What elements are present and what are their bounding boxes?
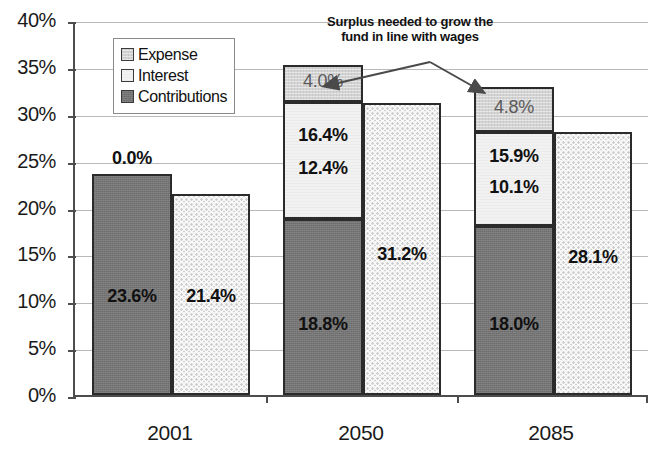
ytick-mark-10 xyxy=(68,303,76,305)
xtick-label-2085: 2085 xyxy=(471,421,631,445)
legend-swatch-contributions-icon xyxy=(121,90,134,103)
ytick-label-0: 0% xyxy=(0,384,56,407)
legend: Expense Interest Contributions xyxy=(113,38,235,114)
annotation-text: Surplus needed to grow the fund in line … xyxy=(300,14,520,44)
bar-label-2085-contributions: 18.0% xyxy=(476,314,552,335)
legend-label-expense: Expense xyxy=(138,46,197,64)
bar-2085-surplus[interactable]: 28.1% xyxy=(554,132,632,395)
bar-label-2085-expense: 4.8% xyxy=(476,97,552,118)
ytick-mark-0 xyxy=(68,397,76,399)
ytick-label-35: 35% xyxy=(0,56,56,79)
legend-item-expense[interactable]: Expense xyxy=(121,44,227,65)
ytick-label-30: 30% xyxy=(0,103,56,126)
bar-label-2050-expense: 4.0% xyxy=(285,71,361,92)
bar-2085-interest[interactable]: 15.9% 10.1% xyxy=(474,132,554,227)
legend-label-contributions: Contributions xyxy=(138,88,227,106)
bar-label-2050-surplus: 31.2% xyxy=(365,244,439,265)
ytick-mark-20 xyxy=(68,210,76,212)
bar-label-2001-top: 0.0% xyxy=(92,148,172,169)
bar-2050-interest[interactable]: 16.4% 12.4% xyxy=(283,102,363,218)
ytick-label-5: 5% xyxy=(0,337,56,360)
bar-2001-surplus[interactable]: 21.4% xyxy=(172,194,250,395)
legend-swatch-interest-icon xyxy=(121,69,134,82)
legend-swatch-expense-icon xyxy=(121,48,134,61)
ytick-label-10: 10% xyxy=(0,290,56,313)
bar-2085-expense[interactable]: 4.8% xyxy=(474,87,554,132)
ytick-mark-35 xyxy=(68,69,76,71)
bar-2050-expense[interactable]: 4.0% xyxy=(283,65,363,103)
bar-label-2001-surplus: 21.4% xyxy=(174,286,248,307)
bar-2050-contributions[interactable]: 18.8% xyxy=(283,219,363,395)
legend-item-interest[interactable]: Interest xyxy=(121,65,227,86)
bar-label-2085-interest-total: 15.9% xyxy=(476,146,552,167)
ytick-mark-30 xyxy=(68,116,76,118)
legend-label-interest: Interest xyxy=(138,67,188,85)
annotation-line-2: fund in line with wages xyxy=(300,29,520,44)
bar-2001-contributions[interactable]: 23.6% xyxy=(92,174,172,395)
bar-label-2085-interest: 10.1% xyxy=(476,177,552,198)
ytick-mark-5 xyxy=(68,350,76,352)
bar-label-2001-contributions: 23.6% xyxy=(94,286,170,307)
bar-label-2050-interest-total: 16.4% xyxy=(285,125,361,146)
xtick-mark-2 xyxy=(457,395,459,403)
ytick-mark-40 xyxy=(68,22,76,24)
xtick-mark-1 xyxy=(266,395,268,403)
xtick-mark-3 xyxy=(646,395,648,403)
xtick-label-2001: 2001 xyxy=(90,421,250,445)
bar-label-2050-contributions: 18.8% xyxy=(285,314,361,335)
legend-item-contributions[interactable]: Contributions xyxy=(121,86,227,107)
ytick-label-25: 25% xyxy=(0,150,56,173)
ytick-label-40: 40% xyxy=(0,9,56,32)
bar-chart: 40% 35% 30% 25% 20% 15% 10% 5% 0% 2001 2… xyxy=(0,0,657,457)
bar-label-2050-interest: 12.4% xyxy=(285,158,361,179)
ytick-mark-25 xyxy=(68,163,76,165)
ytick-label-15: 15% xyxy=(0,243,56,266)
ytick-label-20: 20% xyxy=(0,197,56,220)
bar-label-2085-surplus: 28.1% xyxy=(556,247,630,268)
xtick-label-2050: 2050 xyxy=(281,421,441,445)
bar-2085-contributions[interactable]: 18.0% xyxy=(474,226,554,395)
annotation-line-1: Surplus needed to grow the xyxy=(300,14,520,29)
bar-2050-surplus[interactable]: 31.2% xyxy=(363,103,441,396)
ytick-mark-15 xyxy=(68,256,76,258)
